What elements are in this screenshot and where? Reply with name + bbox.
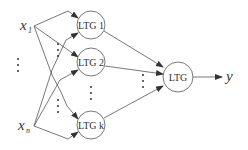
input-x1: x 1 bbox=[19, 17, 32, 35]
ltg-network-diagram: x 1 x n LTG 1 LTG 2 LTG k LTG y bbox=[0, 0, 248, 150]
svg-text:LTG 2: LTG 2 bbox=[78, 57, 104, 68]
hidden-node-k: LTG k bbox=[77, 111, 105, 139]
hidden-node-2: LTG 2 bbox=[77, 48, 105, 76]
svg-text:LTG: LTG bbox=[169, 72, 188, 83]
hidden-node-1: LTG 1 bbox=[77, 11, 105, 39]
svg-text:x: x bbox=[19, 17, 27, 33]
output-node: LTG bbox=[163, 62, 193, 92]
input-connections bbox=[34, 11, 78, 139]
svg-text:n: n bbox=[26, 126, 30, 135]
output-y: y bbox=[224, 68, 233, 84]
input-xn: x n bbox=[17, 117, 30, 135]
svg-text:1: 1 bbox=[28, 26, 32, 35]
svg-text:x: x bbox=[17, 117, 25, 133]
svg-text:LTG k: LTG k bbox=[78, 120, 104, 131]
svg-text:LTG 1: LTG 1 bbox=[78, 20, 104, 31]
